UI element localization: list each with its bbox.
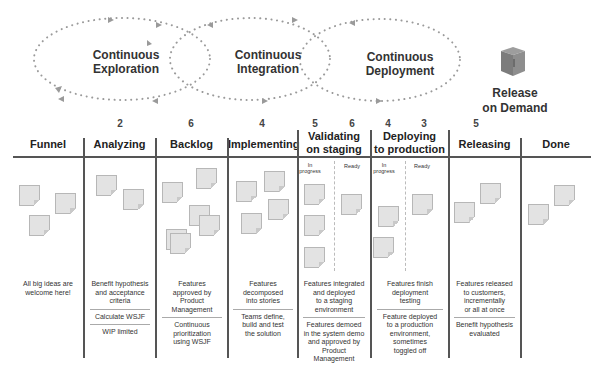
desc-separator	[90, 324, 150, 325]
column-title-funnel: Funnel	[13, 138, 83, 151]
desc-line: criteria	[86, 297, 154, 306]
sticky-note	[304, 184, 325, 205]
desc-line: build and test	[229, 321, 297, 330]
desc-line: the solution	[229, 330, 297, 339]
sticky-note	[96, 175, 117, 196]
release-label-line: Release	[470, 86, 560, 101]
desc-line: and deployed	[299, 289, 369, 298]
loop-continuous-integration: Continuous Integration	[228, 48, 308, 76]
column-title-analyzing: Analyzing	[84, 138, 155, 151]
sticky-note	[236, 181, 257, 202]
desc-line: decomposed	[229, 289, 297, 298]
column-description-implementing: Features decomposed into stories Teams d…	[229, 280, 297, 338]
column-divider	[520, 138, 522, 358]
column-title-line: Deploying	[371, 130, 448, 143]
desc-line: Features	[158, 280, 226, 289]
loop-label-line: Integration	[228, 62, 308, 76]
sticky-note	[170, 233, 191, 254]
sticky-note	[554, 185, 575, 206]
desc-line: Management	[299, 355, 369, 364]
sticky-note	[304, 215, 325, 236]
sticky-note	[268, 199, 289, 220]
column-title-releasing: Releasing	[449, 138, 520, 151]
desc-line: welcome here!	[14, 289, 82, 298]
subcolumn-label-ready: Ready	[341, 163, 363, 169]
desc-line: All big ideas are	[14, 280, 82, 289]
column-title-done: Done	[521, 138, 591, 151]
column-divider	[155, 138, 157, 358]
desc-separator	[162, 317, 222, 318]
sticky-note	[162, 182, 183, 203]
sticky-note	[123, 189, 144, 210]
loop-label-line: Continuous	[86, 48, 166, 62]
desc-line: incrementally	[450, 297, 519, 306]
desc-line: prioritization	[158, 330, 226, 339]
subcolumn-divider	[405, 161, 406, 271]
desc-line: Continuous	[158, 321, 226, 330]
wip-limit-implementing: 4	[252, 118, 272, 129]
desc-line: and approved by	[299, 338, 369, 347]
sticky-note	[528, 204, 549, 225]
column-description-validating: Features integrated and deployed to a st…	[299, 280, 369, 364]
wip-limit-deploying-ready: 3	[414, 118, 434, 129]
desc-separator	[303, 317, 365, 318]
loop-continuous-deployment: Continuous Deployment	[358, 50, 442, 78]
loop-continuous-exploration: Continuous Exploration	[86, 48, 166, 76]
wip-limit-releasing: 5	[466, 118, 486, 129]
board-header-divider	[13, 156, 591, 158]
column-description-analyzing: Benefit hypothesis and acceptance criter…	[86, 280, 154, 337]
column-title-validating: Validating on staging	[298, 130, 370, 156]
desc-line: Features	[229, 280, 297, 289]
wip-limit-validating-ready: 6	[342, 118, 362, 129]
column-description-backlog: Features approved by Product Management …	[158, 280, 226, 347]
sticky-note	[199, 215, 220, 236]
desc-line: to a production	[373, 321, 447, 330]
loop-label-line: Exploration	[86, 62, 166, 76]
desc-line: approved by	[158, 289, 226, 298]
desc-line: Features integrated	[299, 280, 369, 289]
column-title-line: Validating	[298, 130, 370, 143]
desc-line: Benefit hypothesis	[450, 321, 519, 330]
desc-separator	[377, 309, 443, 310]
desc-line: Feature deployed	[373, 313, 447, 322]
desc-line: sometimes	[373, 338, 447, 347]
desc-line: evaluated	[450, 330, 519, 339]
sticky-note	[29, 215, 50, 236]
desc-line: Features released	[450, 280, 519, 289]
subcolumn-divider	[334, 161, 335, 271]
column-description-funnel: All big ideas are welcome here!	[14, 280, 82, 297]
column-divider	[370, 130, 372, 358]
loop-label-line: Deployment	[358, 64, 442, 78]
desc-line: Benefit hypothesis	[86, 280, 154, 289]
wip-limit-deploying-in-progress: 4	[378, 118, 398, 129]
desc-line: Product	[158, 297, 226, 306]
desc-line: environment,	[373, 330, 447, 339]
desc-line: to a staging	[299, 297, 369, 306]
wip-limit-analyzing: 2	[110, 118, 130, 129]
column-description-releasing: Features released to customers, incremen…	[450, 280, 519, 338]
sticky-note	[480, 183, 501, 204]
subcolumn-label-ready: Ready	[411, 163, 433, 169]
desc-line: environment	[299, 306, 369, 315]
desc-line: Teams define,	[229, 313, 297, 322]
sticky-note	[378, 206, 399, 227]
desc-line: to customers,	[450, 289, 519, 298]
subcolumn-label-in-progress: In progress	[373, 162, 395, 174]
sticky-note	[341, 194, 362, 215]
column-title-line: to production	[371, 143, 448, 156]
sticky-note	[264, 171, 285, 192]
desc-separator	[454, 317, 515, 318]
column-title-line: on staging	[298, 143, 370, 156]
subcolumn-label-in-progress: In progress	[299, 162, 321, 174]
desc-line: Management	[158, 306, 226, 315]
column-title-implementing: Implementing	[228, 138, 298, 151]
column-divider	[83, 138, 85, 358]
desc-line: or all at once	[450, 306, 519, 315]
desc-separator	[233, 309, 293, 310]
desc-line: in the system demo	[299, 330, 369, 339]
sticky-note	[412, 194, 433, 215]
desc-line: toggled off	[373, 347, 447, 356]
sticky-note	[196, 168, 217, 189]
column-title-backlog: Backlog	[156, 138, 227, 151]
desc-line: Features demoed	[299, 321, 369, 330]
